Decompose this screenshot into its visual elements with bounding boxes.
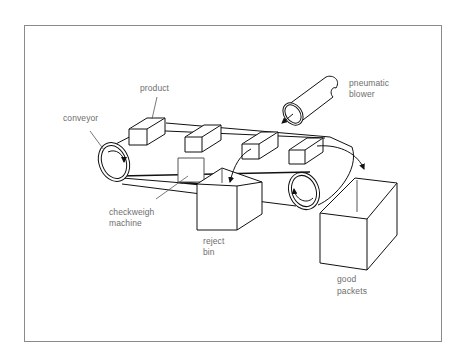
label-product: product (140, 83, 169, 94)
label-blower: blower (349, 89, 375, 100)
label-bin: bin (203, 247, 215, 258)
label-checkweigh: checkweigh (109, 207, 154, 218)
label-machine: machine (109, 218, 142, 229)
conveyor-diagram (0, 0, 466, 359)
label-pneumatic: pneumatic (349, 78, 389, 89)
product-4 (289, 138, 323, 164)
good-flow-arrow-icon (317, 146, 364, 169)
label-conveyor: conveyor (63, 113, 98, 124)
right-roller (283, 168, 324, 214)
good-packets-bin (320, 178, 397, 270)
label-good: good (337, 274, 356, 285)
checkweigh-machine (178, 158, 204, 182)
reject-bin (197, 168, 262, 230)
label-packets: packets (337, 286, 367, 297)
product-2 (185, 125, 221, 152)
product-1 (129, 118, 165, 145)
pneumatic-blower (279, 76, 338, 129)
product-3 (242, 132, 278, 159)
label-reject: reject (203, 236, 224, 247)
